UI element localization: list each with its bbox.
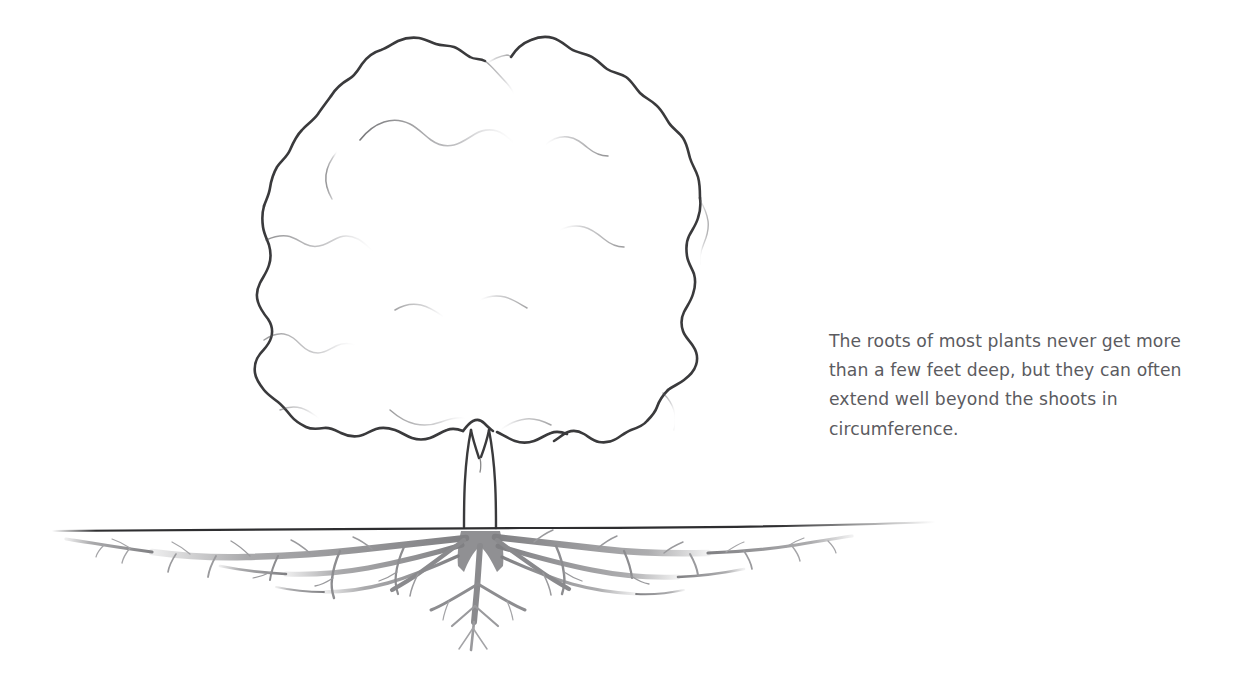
canopy-inner-line-left-1 — [266, 236, 373, 251]
root-taproot-branch-r3 — [473, 628, 487, 649]
canopy-inner-line-center-5 — [480, 296, 527, 308]
root-taproot-branch-r2 — [475, 606, 498, 626]
canopy-outline-top-left — [331, 38, 485, 96]
root-lateral-left-2-ext — [220, 566, 286, 574]
canopy-inner-line-center-4 — [560, 226, 624, 247]
ground-line-stroke — [52, 522, 935, 531]
root-branchlet-right-f — [828, 541, 836, 553]
canopy-inner-line-center-1 — [360, 120, 514, 146]
root-taproot-tip — [471, 622, 474, 650]
canopy-inner-line-right-lower-faint — [663, 393, 676, 430]
trunk-left-side — [464, 430, 471, 527]
illustration-page: The roots of most plants never get more … — [0, 0, 1255, 685]
canopy-inner-line-center-3 — [545, 137, 608, 156]
root-hair-left-a — [231, 541, 250, 556]
tree-trunk — [464, 430, 496, 528]
trunk-fork-left-branch — [471, 430, 479, 458]
caption-text: The roots of most plants never get more … — [829, 327, 1209, 444]
root-branchlet-left-f — [122, 548, 130, 563]
root-lateral-right-2-ext — [678, 569, 744, 577]
trunk-fork-right-branch — [481, 430, 489, 457]
canopy-inner-line-top-middle — [485, 61, 514, 93]
canopy-outline-top-left-lower — [264, 96, 331, 206]
root-hair-right-b — [598, 536, 617, 548]
canopy-inner-line-left-2 — [264, 334, 355, 353]
root-lateral-right-3-ext — [636, 590, 684, 594]
root-branchlet-left-b2 — [315, 578, 333, 586]
root-hair-left-b — [291, 540, 310, 553]
canopy-outline-bottom-left — [255, 206, 463, 440]
root-branchlet-right-e — [792, 546, 800, 561]
root-system — [66, 530, 852, 650]
canopy-outline-right — [668, 198, 700, 390]
trunk-right-side — [489, 430, 496, 528]
root-lateral-right-main-ext — [708, 536, 852, 553]
root-taproot-branch-l1 — [431, 584, 478, 610]
canopy-outline-right-lower — [554, 390, 668, 442]
canopy-inner-line-bottom-right — [500, 419, 551, 430]
tree-canopy — [255, 37, 709, 443]
root-branchlet-right-a2 — [564, 572, 582, 581]
ground-line — [52, 522, 935, 531]
root-branchlet-left-c — [270, 556, 278, 580]
root-branchlet-right-c — [690, 554, 698, 575]
root-branchlet-left-g — [96, 545, 104, 557]
canopy-inner-line-left-3 — [280, 407, 319, 418]
canopy-outline-top-right — [511, 37, 700, 198]
canopy-inner-line-top-right-faint — [486, 55, 511, 64]
root-branchlet-right-d — [744, 551, 752, 569]
root-taproot-branch-r1 — [478, 584, 525, 610]
root-lateral-left-3-ext — [276, 587, 324, 592]
canopy-inner-line-center-2 — [326, 152, 337, 199]
root-lateral-left-main-ext — [66, 539, 152, 552]
canopy-inner-line-bottom-center — [390, 410, 465, 425]
trunk-fork-inner-tick — [480, 458, 481, 472]
canopy-inner-line-center-6 — [395, 304, 444, 317]
